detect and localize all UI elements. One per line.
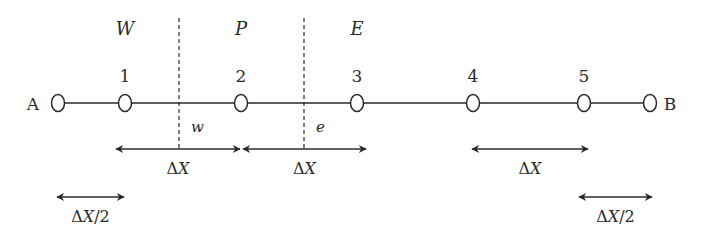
boundary-label-b: B (664, 94, 677, 114)
boundary-label-a: A (26, 94, 40, 114)
face-label-w: w (191, 118, 204, 136)
grid-node-circle (578, 95, 591, 112)
node-number-label: 5 (579, 66, 590, 86)
grid-node-circle (52, 95, 65, 112)
region-label-p: P (234, 18, 248, 39)
grid-node-circle (119, 95, 132, 112)
spacing-label: ΔX (519, 159, 543, 178)
spacing-label: ΔX (293, 159, 317, 178)
grid-node-circle (467, 95, 480, 112)
region-label-e: E (349, 18, 363, 39)
face-label-e: e (316, 118, 325, 136)
node-number-label: 3 (352, 66, 363, 86)
node-number-label: 4 (468, 66, 479, 86)
node-number-label: 1 (120, 66, 131, 86)
grid-node-circle (235, 95, 248, 112)
spacing-label: ΔX/2 (71, 207, 110, 226)
spacing-label: ΔX (167, 159, 191, 178)
region-label-w: W (116, 18, 136, 39)
grid-node-circle (644, 95, 657, 112)
node-number-label: 2 (236, 66, 247, 86)
grid-diagram: we 12345 WPE ΔXΔXΔXΔX/2ΔX/2 A B (0, 0, 704, 248)
spacing-label: ΔX/2 (596, 207, 635, 226)
grid-node-circle (351, 95, 364, 112)
